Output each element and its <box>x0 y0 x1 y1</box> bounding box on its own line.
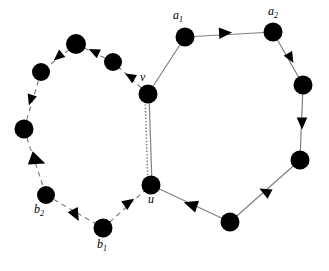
vertex-label-a1: a1 <box>173 9 183 24</box>
vertex-label-b2: b2 <box>34 203 44 218</box>
node-v[interactable] <box>139 85 158 104</box>
vertex-label-u: u <box>148 193 154 205</box>
edge-v-a1-solid <box>148 37 185 94</box>
edge-u-v-solid <box>149 94 152 185</box>
vertex-label-a1-subscript: 1 <box>179 15 183 24</box>
edge-u-v-dotted <box>145 94 148 185</box>
vertex-label-b1-subscript: 1 <box>103 244 107 253</box>
arrowhead-l3-l4 <box>24 94 37 107</box>
arrowhead-r1-r2 <box>297 117 308 129</box>
arrowhead-r3-u <box>182 196 199 212</box>
vertex-label-b1: b1 <box>97 238 107 253</box>
node-r2[interactable] <box>291 151 310 170</box>
node-l2[interactable] <box>66 34 86 54</box>
edges-layer <box>24 32 303 228</box>
node-l3[interactable] <box>32 63 50 81</box>
arrowhead-b1-u <box>121 194 137 210</box>
node-b1[interactable] <box>94 219 113 238</box>
node-l4[interactable] <box>15 120 34 139</box>
vertex-label-a2: a2 <box>268 5 278 20</box>
vertex-label-v: v <box>140 71 145 83</box>
vertex-label-b2-subscript: 2 <box>40 209 44 218</box>
graph-canvas <box>0 0 329 271</box>
node-a1[interactable] <box>176 28 195 47</box>
arrowhead-l4-b2 <box>28 151 48 170</box>
node-r3[interactable] <box>221 213 240 232</box>
node-l1[interactable] <box>104 53 122 71</box>
vertex-label-a2-subscript: 2 <box>274 11 278 20</box>
arrowhead-l1-l2 <box>87 45 101 58</box>
arrowheads-layer <box>24 27 307 224</box>
graph-figure: a1a2vub1b2 <box>0 0 329 271</box>
node-r1[interactable] <box>294 76 313 95</box>
node-a2[interactable] <box>264 23 283 42</box>
vertex-label-u-base: u <box>148 192 154 206</box>
arrowhead-a1-a2 <box>219 27 233 39</box>
vertex-label-v-base: v <box>140 70 145 84</box>
